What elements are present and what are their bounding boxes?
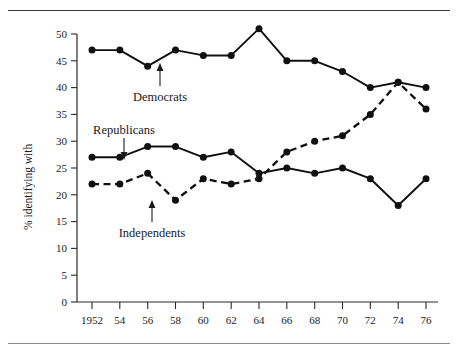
- data-point: [339, 68, 346, 75]
- y-axis-tick-labels: 0 5 10 15 20 25 30 35 40 45 50: [56, 28, 68, 308]
- data-point: [89, 47, 96, 54]
- data-point: [339, 165, 346, 172]
- data-point: [228, 181, 235, 188]
- x-tick-label: 68: [309, 314, 321, 326]
- x-tick-label: 74: [393, 314, 405, 326]
- series-label-republicans: Republicans: [93, 123, 155, 137]
- data-point: [256, 25, 263, 32]
- data-point: [200, 52, 207, 59]
- data-point: [283, 57, 290, 64]
- y-tick-label: 20: [56, 189, 68, 201]
- figure-container: 0 5 10 15 20 25 30 35 40 45 50 % identif…: [0, 0, 458, 355]
- data-point: [116, 47, 123, 54]
- data-point: [311, 57, 318, 64]
- data-point: [423, 106, 430, 113]
- data-point: [228, 52, 235, 59]
- data-point: [200, 175, 207, 182]
- y-tick-label: 25: [56, 162, 68, 174]
- y-tick-label: 10: [56, 242, 68, 254]
- annotation-democrats: Democrats: [133, 63, 187, 104]
- y-tick-label: 15: [56, 215, 68, 227]
- x-tick-label: 56: [142, 314, 154, 326]
- data-point: [367, 84, 374, 91]
- data-point: [172, 197, 179, 204]
- x-tick-label: 58: [170, 314, 182, 326]
- data-point: [144, 143, 151, 150]
- x-tick-label: 54: [114, 314, 126, 326]
- y-tick-label: 5: [62, 269, 68, 281]
- data-point: [144, 63, 151, 70]
- data-point: [367, 111, 374, 118]
- data-point: [367, 175, 374, 182]
- series-layer: [89, 25, 430, 209]
- data-point: [339, 132, 346, 139]
- data-point: [283, 148, 290, 155]
- y-tick-label: 45: [56, 55, 68, 67]
- x-tick-label: 66: [281, 314, 293, 326]
- data-point: [395, 202, 402, 209]
- data-point: [311, 170, 318, 177]
- data-point: [311, 138, 318, 145]
- line-chart: 0 5 10 15 20 25 30 35 40 45 50 % identif…: [0, 0, 458, 355]
- y-tick-label: 0: [62, 296, 68, 308]
- x-tick-label: 72: [365, 314, 376, 326]
- data-point: [89, 154, 96, 161]
- data-point: [256, 175, 263, 182]
- data-point: [283, 165, 290, 172]
- data-point: [200, 154, 207, 161]
- y-axis-ticks: [71, 34, 77, 302]
- y-tick-label: 35: [56, 108, 68, 120]
- x-tick-label: 64: [254, 314, 266, 326]
- data-point: [228, 148, 235, 155]
- x-axis-ticks: [92, 302, 426, 309]
- x-tick-label: 1952: [81, 314, 103, 326]
- x-axis-tick-labels: 1952 54 56 58 60 62 64 66 68 70 72 74 76: [81, 314, 432, 326]
- data-point: [89, 181, 96, 188]
- data-point: [172, 143, 179, 150]
- y-tick-label: 40: [56, 81, 68, 93]
- x-tick-label: 62: [226, 314, 237, 326]
- data-point: [423, 175, 430, 182]
- series-democrats: [89, 25, 430, 91]
- y-axis-title: % identifying with: [22, 144, 35, 230]
- series-label-democrats: Democrats: [133, 90, 187, 104]
- annotation-republicans: Republicans: [93, 123, 155, 160]
- data-point: [395, 79, 402, 86]
- annotation-independents: Independents: [119, 200, 186, 240]
- data-point: [116, 181, 123, 188]
- series-label-independents: Independents: [119, 226, 186, 240]
- series-line-democrats: [92, 29, 426, 88]
- x-tick-label: 76: [421, 314, 433, 326]
- y-tick-label: 50: [56, 28, 68, 40]
- data-point: [172, 47, 179, 54]
- y-tick-label: 30: [56, 135, 68, 147]
- x-tick-label: 60: [198, 314, 210, 326]
- data-point: [423, 84, 430, 91]
- data-point: [144, 170, 151, 177]
- x-tick-label: 70: [337, 314, 349, 326]
